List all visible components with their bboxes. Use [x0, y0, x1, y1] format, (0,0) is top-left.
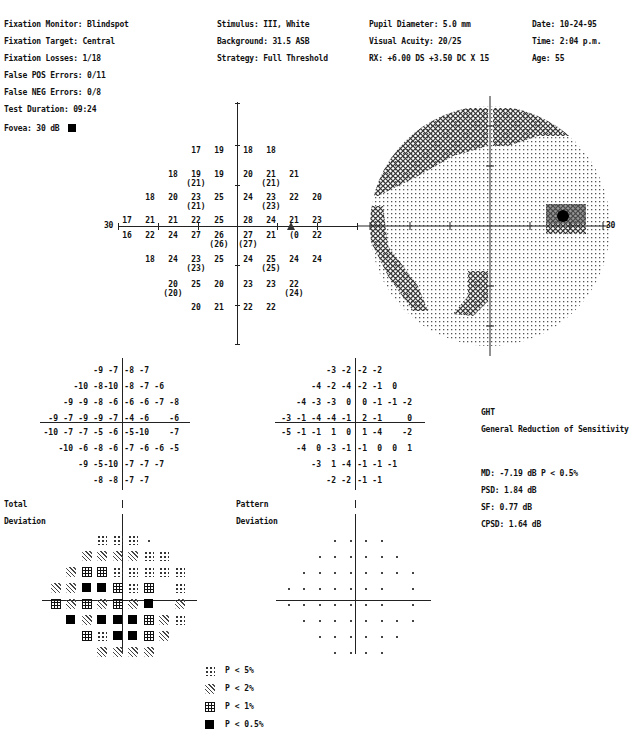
- normal-dot-icon: [319, 572, 321, 574]
- total-deviation-value: -8: [87, 444, 103, 453]
- threshold-value: 26(26): [209, 231, 229, 249]
- normal-dot-icon: [365, 572, 367, 574]
- pattern-deviation-value: -2: [396, 398, 412, 407]
- threshold-db: 18: [145, 193, 155, 202]
- normal-dot-icon: [334, 652, 336, 654]
- threshold-value: 18: [261, 146, 281, 155]
- normal-dot-icon: [381, 572, 383, 574]
- total-deviation-value: -6: [148, 444, 164, 453]
- threshold-value: 23: [238, 280, 258, 289]
- normal-dot-icon: [303, 620, 305, 622]
- p2-symbol-icon: [66, 583, 76, 593]
- pd-map-axis-top: [355, 500, 356, 508]
- threshold-value: 21: [140, 216, 160, 225]
- pattern-deviation-value: -2: [335, 476, 351, 485]
- threshold-db: 21: [289, 216, 299, 225]
- pattern-deviation-value: -2: [335, 366, 351, 375]
- threshold-value: 23: [307, 216, 327, 225]
- p2-symbol-icon: [66, 599, 76, 609]
- background: Background: 31.5 ASB: [217, 37, 309, 47]
- total-deviation-value: -7: [148, 460, 164, 469]
- threshold-value: 21: [284, 170, 304, 179]
- fovea-square-icon: [68, 124, 76, 132]
- total-deviation-value: -7: [133, 460, 149, 469]
- total-deviation-value: -9: [57, 398, 73, 407]
- ght-label: GHT: [481, 408, 495, 418]
- false-neg-errors: False NEG Errors: 0/8: [4, 88, 101, 98]
- p2-symbol-icon: [144, 647, 154, 657]
- threshold-db: 17: [122, 216, 132, 225]
- threshold-db: 18: [168, 170, 178, 179]
- p05-symbol-icon: [128, 631, 137, 640]
- total-deviation-value: -8: [163, 398, 179, 407]
- p5-symbol-icon: [144, 567, 154, 577]
- threshold-db: 20: [214, 280, 224, 289]
- threshold-value: 17: [186, 146, 206, 155]
- p1-symbol-icon: [97, 567, 107, 577]
- grayscale-axis-label-30: 30: [606, 221, 615, 231]
- threshold-db: 25: [191, 280, 201, 289]
- threshold-value: 21(21): [261, 170, 281, 188]
- normal-dot-icon: [350, 620, 352, 622]
- age: Age: 55: [532, 54, 564, 64]
- p05-symbol-icon: [113, 615, 122, 624]
- threshold-value: (0: [284, 231, 304, 240]
- threshold-db: 21: [145, 216, 155, 225]
- pattern-deviation-value: -4: [305, 414, 321, 423]
- p1-symbol-icon: [144, 583, 154, 593]
- threshold-db: 20: [168, 280, 178, 289]
- p5-symbol-icon: [175, 615, 185, 625]
- p5-symbol-icon: [205, 666, 215, 676]
- total-deviation-value: -8: [87, 476, 103, 485]
- p5-symbol-icon: [144, 551, 154, 561]
- p2-symbol-icon: [97, 647, 107, 657]
- threshold-value: 27(27): [238, 231, 258, 249]
- threshold-db: 18: [145, 255, 155, 264]
- normal-dot-icon: [381, 620, 383, 622]
- threshold-value: 25(25): [261, 255, 281, 273]
- p2-symbol-icon: [128, 551, 138, 561]
- normal-dot-icon: [381, 540, 383, 542]
- threshold-value: 20(20): [163, 280, 183, 298]
- threshold-db: 22: [266, 303, 276, 312]
- threshold-value: 24: [163, 231, 183, 240]
- threshold-value: 22(24): [284, 280, 304, 298]
- threshold-value: 19(21): [186, 170, 206, 188]
- pupil-diameter: Pupil Diameter: 5.0 mm: [369, 20, 471, 30]
- total-deviation-value: -6: [102, 398, 118, 407]
- threshold-db: 23: [191, 193, 201, 202]
- normal-dot-icon: [148, 540, 150, 542]
- pattern-deviation-value: -1: [351, 444, 367, 453]
- normal-dot-icon: [365, 588, 367, 590]
- threshold-db: 16: [122, 231, 132, 240]
- pattern-deviation-value: 0: [335, 428, 351, 437]
- p5-symbol-icon: [128, 583, 138, 593]
- threshold-retest-db: (20): [163, 289, 183, 298]
- threshold-value: 25: [209, 193, 229, 202]
- threshold-db: 23: [312, 216, 322, 225]
- total-deviation-value: -5: [87, 460, 103, 469]
- threshold-value: 28: [238, 216, 258, 225]
- normal-dot-icon: [350, 556, 352, 558]
- pattern-deviation-value: -4: [290, 398, 306, 407]
- normal-dot-icon: [288, 588, 290, 590]
- pattern-deviation-value: -1: [366, 382, 382, 391]
- total-deviation-value: -4: [118, 414, 134, 423]
- total-deviation-value: -8: [118, 382, 134, 391]
- fixation-monitor: Fixation Monitor: Blindspot: [4, 20, 129, 30]
- threshold-value: 25: [186, 280, 206, 289]
- fixation-target: Fixation Target: Central: [4, 37, 115, 47]
- fixation-losses: Fixation Losses: 1/18: [4, 54, 101, 64]
- total-deviation-value: -7: [133, 476, 149, 485]
- normal-dot-icon: [319, 604, 321, 606]
- p2-symbol-icon: [82, 615, 92, 625]
- pattern-deviation-value: -1: [381, 398, 397, 407]
- p05-symbol-icon: [144, 599, 153, 608]
- p1-symbol-icon: [51, 599, 61, 609]
- pattern-deviation-value: 1: [351, 428, 367, 437]
- pattern-deviation-value: -3: [305, 398, 321, 407]
- threshold-db: 23: [191, 255, 201, 264]
- normal-dot-icon: [319, 620, 321, 622]
- p5-symbol-icon: [175, 567, 185, 577]
- threshold-value: 24: [261, 216, 281, 225]
